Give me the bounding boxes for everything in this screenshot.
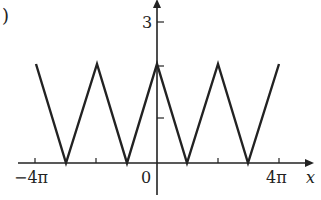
- x-tick-label-zero: 0: [141, 168, 151, 187]
- x-axis: −4π 0 4π x: [14, 158, 315, 187]
- x-tick-label-4pi: 4π: [266, 168, 287, 187]
- x-tick-label-neg4pi: −4π: [14, 168, 48, 187]
- y-axis: 3: [142, 0, 164, 195]
- panel-label: ): [2, 5, 9, 26]
- y-axis-arrow-icon: [153, 0, 161, 8]
- x-axis-label: x: [306, 168, 315, 187]
- y-tick-label-3: 3: [142, 13, 152, 32]
- triangle-wave-chart: ) −4π 0 4π x 3: [0, 0, 321, 200]
- x-axis-arrow-icon: [305, 159, 314, 167]
